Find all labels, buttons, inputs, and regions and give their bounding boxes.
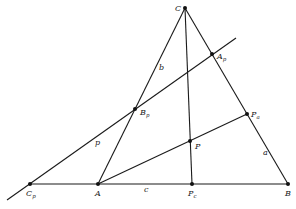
label-point-pc: Pc bbox=[187, 189, 196, 199]
point-pa bbox=[245, 112, 249, 116]
side-a bbox=[185, 8, 288, 184]
triangle-diagram: CApBpPaPCpAPcB bpca bbox=[0, 0, 296, 209]
label-point-p: P bbox=[194, 142, 201, 151]
label-b: b bbox=[159, 63, 164, 72]
cevian-c bbox=[185, 8, 192, 184]
point-c bbox=[183, 6, 187, 10]
label-c: c bbox=[144, 185, 149, 194]
point-a bbox=[96, 182, 100, 186]
point-cp bbox=[28, 182, 32, 186]
point-labels: CApBpPaPCpAPcB bbox=[26, 4, 291, 200]
point-b bbox=[286, 182, 290, 186]
point-p bbox=[188, 139, 192, 143]
label-point-pa: Pa bbox=[250, 110, 260, 120]
line-p bbox=[7, 38, 236, 200]
cevian-a bbox=[98, 114, 247, 184]
label-a: a bbox=[263, 148, 268, 157]
label-point-ap: Ap bbox=[216, 52, 227, 63]
side-b bbox=[98, 8, 185, 184]
side-labels: bpca bbox=[95, 63, 268, 194]
point-bp bbox=[133, 107, 137, 111]
points bbox=[28, 6, 290, 186]
point-pc bbox=[190, 182, 194, 186]
label-point-b: B bbox=[284, 189, 291, 198]
line-segments bbox=[7, 8, 288, 200]
point-ap bbox=[210, 52, 214, 56]
label-p: p bbox=[95, 138, 100, 147]
label-point-c: C bbox=[175, 4, 181, 13]
label-point-bp: Bp bbox=[139, 108, 150, 119]
label-point-a: A bbox=[94, 189, 101, 198]
label-point-cp: Cp bbox=[26, 189, 36, 200]
